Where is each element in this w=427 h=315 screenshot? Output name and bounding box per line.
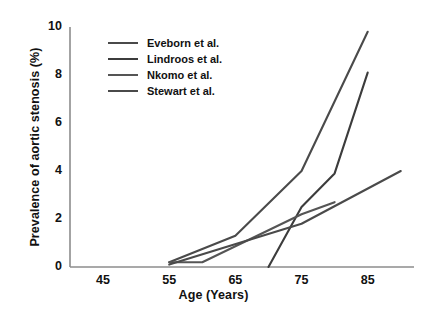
legend-line-swatch [108,42,138,44]
y-axis-title: Prevalence of aortic stenosis (%) [28,27,42,267]
legend-item-label: Lindroos et al. [147,53,222,65]
x-tick-label: 55 [154,273,184,287]
x-tick-label: 75 [287,273,317,287]
legend-item-label: Nkomo et al. [147,69,212,81]
legend-item: Lindroos et al. [108,52,278,66]
series-line-lindroos-et-al [268,73,367,267]
legend-item-label: Eveborn et al. [147,37,219,49]
legend-line-swatch [108,74,138,76]
legend-line-swatch [108,90,138,92]
legend-item: Stewart et al. [108,84,278,98]
chart-figure: 0246810 4555657585 Prevalence of aortic … [0,0,427,315]
x-axis-title: Age (Years) [0,288,427,302]
legend-line-swatch [108,58,138,60]
x-tick-label: 85 [353,273,383,287]
legend-item-label: Stewart et al. [147,85,215,97]
legend-item: Eveborn et al. [108,36,278,50]
x-tick-label: 45 [88,273,118,287]
chart-legend: Eveborn et al.Lindroos et al.Nkomo et al… [108,36,278,100]
x-tick-label: 65 [220,273,250,287]
legend-item: Nkomo et al. [108,68,278,82]
series-line-stewart-et-al [169,171,401,265]
